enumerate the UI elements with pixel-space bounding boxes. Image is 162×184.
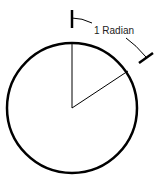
arc-measure-start	[72, 18, 92, 23]
arc-tick-end	[139, 53, 153, 63]
radius-angled	[72, 71, 128, 108]
arc-measure-end	[126, 38, 146, 57]
radian-diagram: 1 Radian	[0, 0, 162, 184]
radian-label: 1 Radian	[94, 25, 134, 36]
